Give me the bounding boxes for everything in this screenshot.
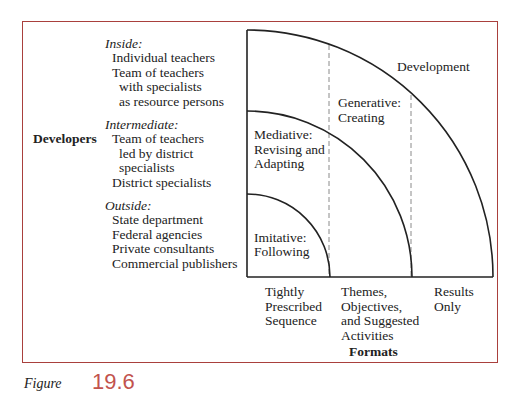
group-item: with specialists xyxy=(119,80,202,95)
region-imitative-line2: Following xyxy=(254,245,310,260)
format-1-line1: Tightly xyxy=(265,285,304,300)
group-item: State department xyxy=(112,213,203,228)
group-item: as resource persons xyxy=(119,95,224,110)
region-generative-line1: Generative: xyxy=(338,96,401,111)
group-item: Team of teachers xyxy=(112,132,204,147)
group-item: Commercial publishers xyxy=(112,257,238,272)
formats-axis-label: Formats xyxy=(349,345,398,360)
format-3-line2: Only xyxy=(434,300,461,315)
group-item: District specialists xyxy=(112,176,211,191)
format-2-line1: Themes, xyxy=(341,285,387,300)
group-item: specialists xyxy=(119,161,175,176)
format-3-line1: Results xyxy=(434,285,474,300)
developers-axis-label: Developers xyxy=(33,132,97,147)
region-mediative-line3: Adapting xyxy=(254,157,304,172)
group-item: Private consultants xyxy=(112,242,214,257)
caption-prefix: Figure xyxy=(24,376,62,392)
group-item: Individual teachers xyxy=(112,51,215,66)
region-mediative-line1: Mediative: xyxy=(254,128,312,143)
format-1-line3: Sequence xyxy=(265,314,317,329)
caption-number: 19.6 xyxy=(92,369,135,395)
region-development: Development xyxy=(397,60,470,75)
format-2-line3: and Suggested xyxy=(341,314,419,329)
region-generative-line2: Creating xyxy=(338,111,385,126)
format-2-line4: Activities xyxy=(341,329,394,344)
